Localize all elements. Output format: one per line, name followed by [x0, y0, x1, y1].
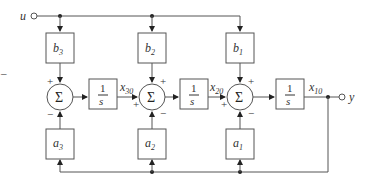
svg-text:s: s [190, 95, 194, 107]
input-label: u [20, 9, 26, 23]
state-label-x30: x30 [119, 80, 133, 96]
svg-text:+: + [221, 98, 227, 110]
svg-text:−: − [248, 107, 254, 119]
svg-text:+: + [160, 75, 166, 87]
summer-1: Σ + + − [221, 75, 254, 119]
integrator-1: 1 s [276, 79, 304, 109]
svg-text:+: + [133, 98, 139, 110]
a2-block: a2 [138, 129, 166, 159]
svg-text:+: + [248, 75, 254, 87]
output-label: y [348, 90, 355, 104]
svg-text:−: − [160, 107, 166, 119]
state-label-x10: x10 [308, 80, 322, 96]
svg-text:Σ: Σ [235, 90, 243, 105]
b2-block: b2 [138, 33, 166, 63]
svg-text:1: 1 [100, 82, 106, 94]
input-bus [37, 16, 240, 31]
svg-text:s: s [286, 95, 290, 107]
a3-block: a3 [46, 129, 74, 159]
svg-text:Σ: Σ [55, 90, 63, 105]
svg-text:Σ: Σ [147, 90, 155, 105]
b1-block: b1 [226, 33, 254, 63]
state-label-x20: x20 [209, 80, 223, 96]
integrator-2: 1 s [180, 79, 208, 109]
block-diagram: u – b3 b2 b1 Σ + − Σ + + − Σ + + [0, 0, 371, 190]
svg-text:1: 1 [191, 82, 197, 94]
output-terminal [339, 94, 345, 100]
svg-text:s: s [99, 95, 103, 107]
svg-text:−: − [47, 108, 53, 120]
a1-block: a1 [226, 129, 254, 159]
svg-text:1: 1 [287, 82, 293, 94]
svg-text:+: + [47, 75, 53, 87]
input-terminal [31, 13, 37, 19]
summer-2: Σ + + − [133, 75, 166, 119]
b3-block: b3 [46, 33, 74, 63]
stray-mark: – [0, 67, 7, 79]
integrator-3: 1 s [89, 79, 117, 109]
